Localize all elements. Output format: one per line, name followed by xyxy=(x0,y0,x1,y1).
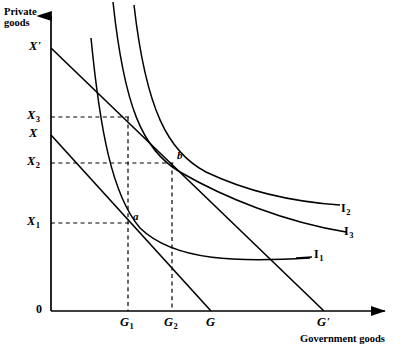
x-tick-g1: G1 xyxy=(120,316,133,329)
curve-label-i1-base: I xyxy=(314,247,319,261)
curve-label-i1-sub: 1 xyxy=(319,253,323,263)
figure-canvas: Private goods Government goods 0 X′ X3 X… xyxy=(0,0,417,357)
curve-label-i2-sub: 2 xyxy=(346,207,350,217)
x-tick-g1-sub: 1 xyxy=(130,321,134,331)
y-tick-x3: X3 xyxy=(27,109,40,122)
curve-label-i3-base: I xyxy=(344,224,349,238)
x-tick-g2-sub: 2 xyxy=(174,321,178,331)
y-tick-x1-sub: 1 xyxy=(36,220,40,230)
x-tick-g-prime-mark: ′ xyxy=(327,315,330,327)
y-tick-x2-sub: 2 xyxy=(36,160,40,170)
x-tick-g-prime-base: G xyxy=(317,315,326,329)
x-tick-g1-base: G xyxy=(120,315,129,329)
x-axis-title: Government goods xyxy=(300,333,385,344)
origin-label: 0 xyxy=(36,303,42,316)
y-tick-x2: X2 xyxy=(27,155,40,168)
y-axis-title: Private goods xyxy=(4,6,37,28)
y-tick-x2-base: X xyxy=(27,154,35,168)
curve-label-i1: I1 xyxy=(314,248,323,261)
x-tick-g2-base: G xyxy=(164,315,173,329)
indifference-curve-I3 xyxy=(113,2,346,232)
point-label-b: b xyxy=(177,150,183,162)
y-tick-x-prime: X′ xyxy=(29,40,40,53)
y-axis-title-line1: Private xyxy=(4,6,37,17)
x-tick-g: G xyxy=(206,316,215,329)
curve-label-i3-sub: 3 xyxy=(349,230,353,240)
y-tick-x1-base: X xyxy=(27,214,35,228)
y-tick-x-prime-base: X xyxy=(29,39,37,53)
curve-label-i2: I2 xyxy=(341,202,350,215)
y-tick-x3-base: X xyxy=(27,108,35,122)
x-tick-g-base: G xyxy=(206,315,215,329)
x-tick-g2: G2 xyxy=(164,316,177,329)
i1-leader-line xyxy=(296,257,312,258)
x-tick-g-prime: G′ xyxy=(317,316,329,329)
curve-label-i2-base: I xyxy=(341,201,346,215)
point-label-a: a xyxy=(133,211,139,223)
y-tick-x-prime-mark: ′ xyxy=(38,39,41,51)
y-tick-x1: X1 xyxy=(27,215,40,228)
y-tick-x3-sub: 3 xyxy=(36,114,40,124)
indifference-curve-chart xyxy=(0,0,417,357)
y-tick-x: X xyxy=(29,127,37,140)
y-tick-x-base: X xyxy=(29,126,37,140)
curve-label-i3: I3 xyxy=(344,225,353,238)
y-axis-title-line2: goods xyxy=(4,17,37,28)
indifference-curve-I2 xyxy=(134,5,340,205)
